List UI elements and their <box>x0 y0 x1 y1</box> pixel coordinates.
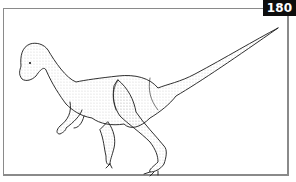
far-leg <box>100 122 115 164</box>
dinosaur-illustration <box>0 0 296 182</box>
eye <box>29 62 31 64</box>
dinosaur-body <box>20 28 278 127</box>
page-number-badge: 180 <box>263 0 296 16</box>
